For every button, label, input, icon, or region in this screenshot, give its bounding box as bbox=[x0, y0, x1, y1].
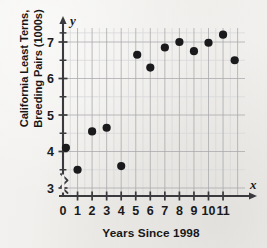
data-point bbox=[133, 51, 141, 59]
x-tick-label: 9 bbox=[190, 204, 197, 218]
grid-major-lines bbox=[63, 28, 245, 196]
y-axis-break-icon bbox=[61, 174, 68, 193]
x-tick-label: 1 bbox=[74, 204, 81, 218]
x-tick-label: 7 bbox=[161, 204, 168, 218]
data-point bbox=[117, 162, 125, 170]
scatter-plot: 34567 01234567891011 yx bbox=[0, 0, 267, 248]
y-tick-label: 3 bbox=[47, 182, 54, 196]
data-point bbox=[175, 38, 183, 46]
data-point bbox=[231, 56, 239, 64]
y-axis-variable-label: y bbox=[68, 13, 76, 28]
data-point bbox=[219, 31, 227, 39]
data-point bbox=[204, 39, 212, 47]
x-axis-variable-label: x bbox=[249, 177, 257, 192]
y-tick-label: 5 bbox=[47, 109, 54, 123]
x-tick-label: 2 bbox=[89, 204, 96, 218]
y-tick-label: 6 bbox=[47, 72, 54, 86]
y-tick-label: 7 bbox=[47, 36, 54, 50]
grid-minor-lines bbox=[63, 28, 245, 196]
y-tick-label: 4 bbox=[47, 145, 54, 159]
y-tick-labels: 34567 bbox=[47, 36, 54, 196]
data-point bbox=[103, 124, 111, 132]
x-tick-label: 3 bbox=[103, 204, 110, 218]
data-point bbox=[73, 166, 81, 174]
data-point bbox=[62, 144, 70, 152]
axis-lines bbox=[59, 16, 257, 200]
x-tick-label: 10 bbox=[202, 204, 216, 218]
x-tick-labels: 01234567891011 bbox=[60, 204, 230, 218]
data-point bbox=[146, 63, 154, 71]
data-point bbox=[161, 43, 169, 51]
axis-variable-labels: yx bbox=[68, 13, 257, 192]
x-tick-label: 6 bbox=[147, 204, 154, 218]
x-tick-label: 11 bbox=[216, 204, 229, 218]
x-tick-label: 8 bbox=[176, 204, 183, 218]
x-tick-label: 4 bbox=[118, 204, 125, 218]
x-tick-label: 5 bbox=[132, 204, 139, 218]
axis-ticks bbox=[59, 33, 224, 201]
data-point bbox=[88, 127, 96, 135]
x-tick-label: 0 bbox=[60, 204, 67, 218]
data-point bbox=[190, 47, 198, 55]
